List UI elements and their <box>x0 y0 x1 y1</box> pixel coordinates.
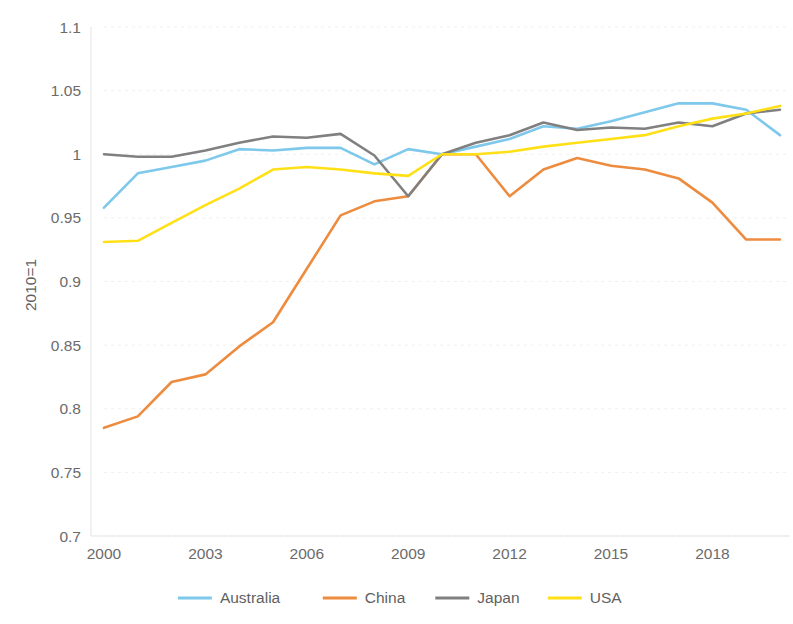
legend-item-japan[interactable]: Japan <box>435 589 519 606</box>
y-tick-label: 0.85 <box>51 337 81 354</box>
y-axis-tick-labels: 0.70.750.80.850.90.9511.051.1 <box>51 19 81 545</box>
y-tick-label: 0.9 <box>59 273 81 290</box>
chart-canvas: 0.70.750.80.850.90.9511.051.1 2000200320… <box>0 0 793 624</box>
legend-label: Australia <box>220 589 281 606</box>
y-tick-label: 0.75 <box>51 464 81 481</box>
series-line-usa <box>104 106 780 242</box>
y-tick-label: 0.7 <box>59 528 81 545</box>
y-tick-label: 0.95 <box>51 209 81 226</box>
chart-legend: AustraliaChinaJapanUSA <box>178 589 622 606</box>
y-tick-label: 1.1 <box>59 19 81 36</box>
x-tick-label: 2003 <box>188 545 222 562</box>
data-series <box>104 103 780 427</box>
x-axis-tick-labels: 2000200320062009201220152018 <box>87 545 730 562</box>
x-tick-label: 2009 <box>391 545 425 562</box>
legend-label: USA <box>590 589 623 606</box>
y-axis-title: 2010=1 <box>22 259 39 311</box>
legend-item-usa[interactable]: USA <box>548 589 623 606</box>
y-tick-label: 0.8 <box>59 400 81 417</box>
x-tick-label: 2018 <box>695 545 729 562</box>
legend-label: China <box>365 589 406 606</box>
x-tick-label: 2006 <box>290 545 324 562</box>
y-tick-label: 1 <box>72 146 81 163</box>
x-tick-label: 2015 <box>594 545 628 562</box>
x-tick-label: 2000 <box>87 545 122 562</box>
y-tick-label: 1.05 <box>51 82 81 99</box>
line-chart: 0.70.750.80.850.90.9511.051.1 2000200320… <box>0 0 793 624</box>
legend-item-australia[interactable]: Australia <box>178 589 281 606</box>
series-line-china <box>104 154 780 428</box>
x-tick-label: 2012 <box>492 545 526 562</box>
legend-label: Japan <box>477 589 519 606</box>
legend-item-china[interactable]: China <box>323 589 406 606</box>
